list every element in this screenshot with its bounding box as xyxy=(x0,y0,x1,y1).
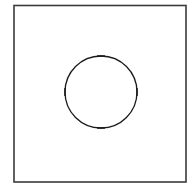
line-drawing xyxy=(0,0,196,196)
border-rectangle xyxy=(14,6,186,183)
drawing-canvas xyxy=(0,0,196,196)
